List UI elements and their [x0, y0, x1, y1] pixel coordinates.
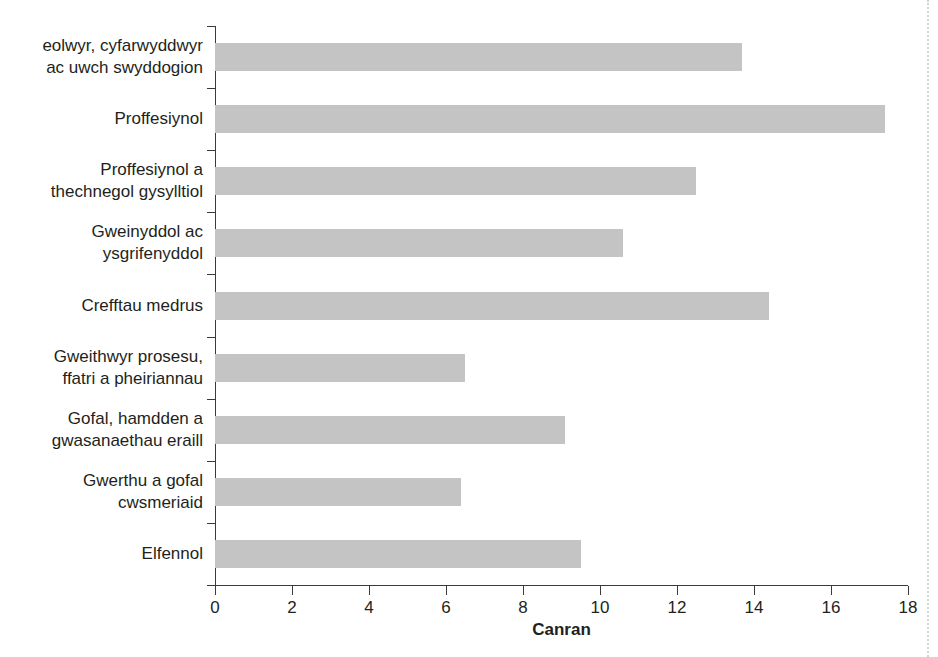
page-edge-dotted-rule	[927, 0, 929, 657]
bar	[215, 105, 885, 133]
category-label: Gweithwyr prosesu, ffatri a pheiriannau	[0, 354, 203, 382]
x-axis-tick	[446, 586, 447, 595]
x-axis-tick-label: 14	[745, 598, 764, 618]
x-axis-tick-label: 18	[899, 598, 918, 618]
x-axis-tick	[523, 586, 524, 595]
bar	[215, 478, 461, 506]
x-axis-tick	[369, 586, 370, 595]
bar	[215, 292, 769, 320]
category-label-text: eolwyr, cyfarwyddwyr ac uwch swyddogion	[42, 35, 203, 79]
x-axis-title: Canran	[215, 620, 908, 640]
category-label: Gweinyddol ac ysgrifenyddol	[0, 229, 203, 257]
x-axis-tick-label: 2	[287, 598, 296, 618]
category-label-text: Gweinyddol ac ysgrifenyddol	[91, 221, 203, 265]
x-axis-tick-label: 0	[210, 598, 219, 618]
bar	[215, 167, 696, 195]
x-axis-tick	[600, 586, 601, 595]
value-axis-spine: 024681012141618	[215, 585, 908, 586]
x-axis-tick-label: 16	[822, 598, 841, 618]
bar	[215, 416, 565, 444]
category-label: Proffesiynol a thechnegol gysylltiol	[0, 167, 203, 195]
category-label-text: Gweithwyr prosesu, ffatri a pheiriannau	[54, 346, 203, 390]
category-label: Proffesiynol	[0, 105, 203, 133]
x-axis-tick-label: 10	[591, 598, 610, 618]
bar	[215, 229, 623, 257]
category-label-text: Proffesiynol a thechnegol gysylltiol	[51, 159, 203, 203]
bar-chart-figure: 024681012141618 eolwyr, cyfarwyddwyr ac …	[0, 0, 938, 657]
category-label-text: Crefftau medrus	[81, 295, 203, 317]
category-label-text: Elfennol	[142, 543, 203, 565]
x-axis-tick	[215, 586, 216, 595]
category-label-text: Proffesiynol	[114, 108, 203, 130]
category-label: Elfennol	[0, 540, 203, 568]
bar	[215, 354, 465, 382]
x-axis-tick-label: 12	[668, 598, 687, 618]
plot-area: eolwyr, cyfarwyddwyr ac uwch swyddogionP…	[215, 26, 908, 585]
category-label: eolwyr, cyfarwyddwyr ac uwch swyddogion	[0, 43, 203, 71]
bar	[215, 43, 742, 71]
x-axis-tick	[677, 586, 678, 595]
category-label-text: Gofal, hamdden a gwasanaethau eraill	[52, 408, 203, 452]
category-label: Gofal, hamdden a gwasanaethau eraill	[0, 416, 203, 444]
category-label: Crefftau medrus	[0, 292, 203, 320]
x-axis-tick-label: 6	[441, 598, 450, 618]
x-axis-tick	[292, 586, 293, 595]
x-axis-tick	[754, 586, 755, 595]
bar	[215, 540, 581, 568]
x-axis-tick-label: 8	[518, 598, 527, 618]
x-axis-tick-label: 4	[364, 598, 373, 618]
category-label: Gwerthu a gofal cwsmeriaid	[0, 478, 203, 506]
x-axis-tick	[908, 586, 909, 595]
x-axis-tick	[831, 586, 832, 595]
category-label-text: Gwerthu a gofal cwsmeriaid	[83, 470, 203, 514]
